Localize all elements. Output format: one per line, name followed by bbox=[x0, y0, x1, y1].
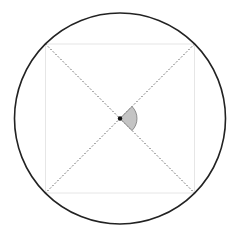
center-point bbox=[118, 116, 122, 120]
angle-sector bbox=[120, 106, 137, 130]
geometry-diagram bbox=[0, 0, 231, 231]
